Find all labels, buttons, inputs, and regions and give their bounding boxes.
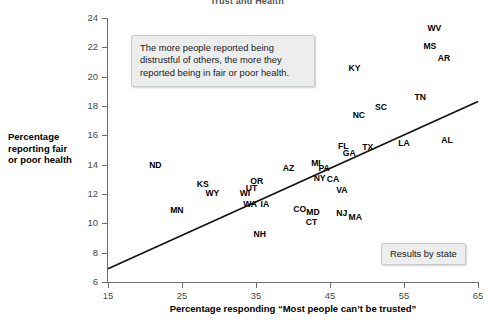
data-point-ar: AR	[438, 53, 450, 62]
data-point-nh: NH	[253, 229, 265, 238]
data-point-ct: CT	[306, 218, 317, 227]
y-tick	[102, 77, 107, 78]
data-point-or: OR	[250, 177, 263, 186]
data-point-ga: GA	[343, 149, 356, 158]
y-tick	[102, 194, 107, 195]
legend-label: Results by state	[390, 248, 457, 259]
annotation-line-2: distrustful of others, the more they	[140, 54, 306, 66]
annotation-line-3: reported being in fair or poor health.	[140, 67, 306, 79]
x-tick	[256, 283, 257, 288]
data-point-la: LA	[398, 138, 409, 147]
y-tick-label: 6	[0, 277, 98, 287]
data-point-ky: KY	[348, 64, 360, 73]
data-point-pa: PA	[318, 163, 329, 172]
data-point-tn: TN	[415, 93, 426, 102]
data-point-az: AZ	[283, 163, 294, 172]
data-point-ca: CA	[327, 175, 339, 184]
x-tick	[404, 283, 405, 288]
y-axis-title-line-1: Percentage	[8, 131, 59, 142]
data-point-ms: MS	[423, 42, 436, 51]
y-tick-label: 12	[0, 189, 98, 199]
data-point-ny: NY	[314, 174, 326, 183]
data-point-ia: IA	[261, 200, 270, 209]
x-tick-label: 25	[162, 291, 202, 301]
data-point-mn: MN	[170, 206, 183, 215]
x-axis-title: Percentage responding “Most people can’t…	[108, 303, 478, 314]
y-tick	[102, 18, 107, 19]
data-point-nj: NJ	[336, 209, 347, 218]
x-tick-label: 55	[384, 291, 424, 301]
y-tick-label: 10	[0, 218, 98, 228]
chart-root: Trust and Health 681012141618202224 1525…	[0, 0, 494, 324]
y-tick-label: 18	[0, 101, 98, 111]
data-point-nd: ND	[149, 160, 161, 169]
x-tick-label: 45	[310, 291, 350, 301]
data-point-wa: WA	[243, 200, 257, 209]
y-tick	[102, 106, 107, 107]
y-tick	[102, 165, 107, 166]
y-tick-label: 20	[0, 72, 98, 82]
y-tick	[102, 253, 107, 254]
y-axis-title-line-2: reporting fair	[8, 143, 67, 154]
y-axis-line	[107, 18, 108, 283]
data-point-al: AL	[441, 135, 452, 144]
data-point-wy: WY	[205, 188, 219, 197]
y-tick	[102, 135, 107, 136]
data-point-va: VA	[336, 185, 347, 194]
annotation-line-1: The more people reported being	[140, 42, 306, 54]
data-point-wv: WV	[427, 24, 441, 33]
y-axis-title-line-3: or poor health	[8, 154, 72, 165]
data-point-nc: NC	[353, 111, 365, 120]
x-tick	[478, 283, 479, 288]
x-tick	[182, 283, 183, 288]
y-tick	[102, 282, 107, 283]
data-point-md: MD	[306, 207, 319, 216]
y-tick	[102, 47, 107, 48]
x-tick-label: 35	[236, 291, 276, 301]
chart-title: Trust and Health	[0, 0, 494, 6]
annotation-callout: The more people reported being distrustf…	[131, 35, 315, 87]
y-tick	[102, 223, 107, 224]
y-tick-label: 24	[0, 13, 98, 23]
data-point-co: CO	[293, 204, 306, 213]
y-tick-label: 22	[0, 42, 98, 52]
x-tick-label: 15	[88, 291, 128, 301]
x-tick-label: 65	[458, 291, 494, 301]
y-axis-title: Percentage reporting fair or poor health	[8, 131, 96, 166]
data-point-tx: TX	[362, 143, 373, 152]
legend-results-by-state: Results by state	[381, 243, 466, 265]
data-point-ma: MA	[348, 213, 361, 222]
x-tick	[330, 283, 331, 288]
x-tick	[108, 283, 109, 288]
data-point-sc: SC	[375, 103, 387, 112]
x-axis-line	[107, 282, 479, 283]
y-tick-label: 8	[0, 248, 98, 258]
